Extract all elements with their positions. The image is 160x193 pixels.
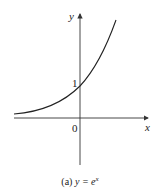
y-axis-label: y (69, 11, 74, 22)
y-intercept-label: 1 (72, 78, 78, 89)
x-axis-label: x (145, 122, 150, 133)
exponential-graph (0, 0, 160, 193)
figure-caption: (a) y = ex (0, 175, 160, 187)
origin-label: 0 (72, 123, 78, 134)
exp-curve (14, 20, 116, 114)
